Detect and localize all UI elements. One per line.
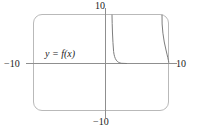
plot-canvas — [0, 0, 200, 134]
axis-label-bottom: −10 — [93, 117, 109, 127]
axis-label-left: −10 — [4, 59, 20, 69]
graph-figure: 10 −10 −10 10 y = f(x) — [0, 0, 200, 134]
axis-label-right: 10 — [176, 59, 186, 69]
curve-left-branch — [112, 15, 127, 64]
curve-right-branch — [162, 15, 169, 62]
axis-label-top: 10 — [95, 1, 105, 11]
function-label: y = f(x) — [45, 49, 75, 59]
